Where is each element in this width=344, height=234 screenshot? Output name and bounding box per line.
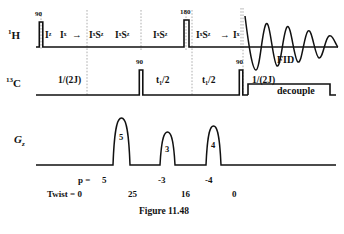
operator-label: IˣSᶻ xyxy=(89,31,103,41)
twist-value: 25 xyxy=(128,190,137,199)
carbon-pulse-flip-90-second: 90 xyxy=(236,59,243,66)
delay-label-t1-second: t₁/2 xyxy=(202,76,215,86)
proton-baseline-with-pulses xyxy=(36,20,243,47)
decouple-label: decouple xyxy=(277,86,315,96)
operator-label: Iᶻ xyxy=(45,31,51,41)
coherence-order-value: -4 xyxy=(205,176,213,185)
gradient-channel-trace xyxy=(36,118,336,165)
gradient-amplitude-label: 5 xyxy=(119,133,123,142)
transform-arrow-icon: → xyxy=(72,31,82,41)
coherence-order-label: p = xyxy=(78,176,90,185)
proton-pulse-flip-180: 180 xyxy=(180,9,191,16)
gradient-axis: z xyxy=(22,140,25,148)
coherence-order-value: -3 xyxy=(158,176,166,185)
delay-label-coupling-second: 1/(2J) xyxy=(252,76,275,86)
operator-label: Iˣ xyxy=(60,31,66,41)
gradient-amplitude-label: 3 xyxy=(165,145,169,154)
proton-element: H xyxy=(12,29,21,41)
operator-label: IˣSᶻ xyxy=(196,31,210,41)
gradient-amplitude-label: 4 xyxy=(211,141,215,150)
figure-caption: Figure 11.48 xyxy=(139,207,189,217)
channel-label-carbon: 13C xyxy=(6,77,21,89)
channel-label-proton: 1H xyxy=(8,29,20,41)
operator-label: Iˣ xyxy=(233,31,239,41)
coherence-order-value: 5 xyxy=(102,176,107,185)
channel-label-gradient: Gz xyxy=(14,134,25,148)
operator-label: IˣSᶻ xyxy=(153,31,167,41)
twist-value: 0 xyxy=(232,190,237,199)
carbon-pulse-flip-90-first: 90 xyxy=(136,59,143,66)
proton-channel-trace xyxy=(36,20,243,47)
gradient-symbol: G xyxy=(14,133,22,145)
operator-label: IˣSᶻ xyxy=(115,31,129,41)
proton-pulse-flip-90: 90 xyxy=(35,11,42,18)
twist-label: Twist = 0 xyxy=(47,190,82,199)
gradient-pulse-train xyxy=(36,118,336,165)
twist-value: 16 xyxy=(181,190,190,199)
fid-label: FID xyxy=(277,55,294,65)
delay-label-coupling-first: 1/(2J) xyxy=(58,76,81,86)
transform-arrow-icon: → xyxy=(220,31,230,41)
delay-label-t1-first: t₁/2 xyxy=(156,76,169,86)
carbon-element: C xyxy=(13,77,21,89)
carbon-mass-number: 13 xyxy=(6,76,13,84)
